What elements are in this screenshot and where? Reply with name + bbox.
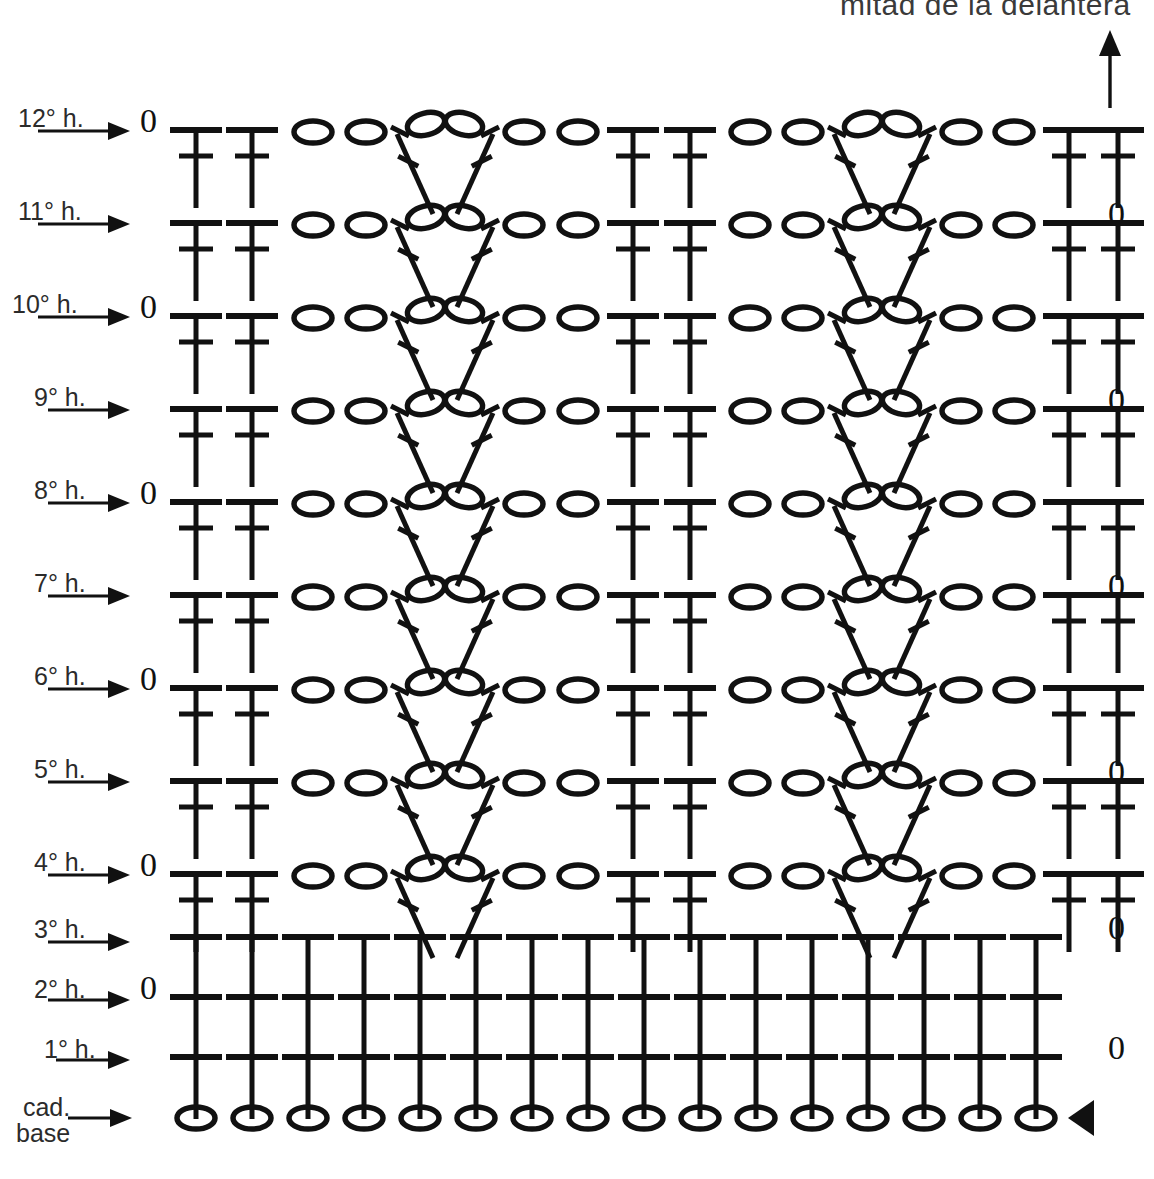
vcluster-left-stem [834, 692, 870, 772]
chain-stitch-oval [559, 865, 597, 887]
vcluster-right-cross-bar [472, 156, 492, 166]
chain-stitch-oval [443, 388, 485, 419]
chain-stitch-oval [942, 586, 980, 608]
vcluster-right-top-bar [918, 871, 936, 880]
vcluster-right-stem [457, 599, 493, 679]
row-group-row-12 [38, 109, 1144, 214]
vcluster-left-stem [397, 506, 433, 586]
chain-stitch-oval [405, 202, 447, 233]
vcluster-left-cross-bar [835, 435, 855, 445]
vcluster-left-cross-bar [398, 435, 418, 445]
row-group-row-7 [48, 574, 1144, 679]
vcluster-right-cross-bar [472, 900, 492, 910]
chain-stitch-oval [880, 481, 922, 512]
chain-stitch-oval [784, 586, 822, 608]
vcluster-right-stem [457, 506, 493, 586]
row-label-row-3: 3° h. [34, 915, 86, 944]
turning-chain-marker-row-11: 0 [1108, 195, 1125, 233]
vcluster-right-cross-bar [472, 435, 492, 445]
vcluster-left-cross-bar [398, 249, 418, 259]
vcluster-left-top-bar [828, 406, 846, 415]
row-arrow-row-4-head [108, 866, 130, 884]
vcluster-right-stem [894, 320, 930, 400]
row-label-row-8: 8° h. [34, 476, 86, 505]
chain-stitch-oval [294, 121, 332, 143]
vcluster-right-top-bar [918, 778, 936, 787]
chain-stitch-oval [347, 679, 385, 701]
chain-stitch-oval [842, 295, 884, 326]
chain-stitch-oval [457, 1107, 495, 1129]
vcluster-left-top-bar [391, 406, 409, 415]
chain-stitch-oval [405, 109, 447, 140]
vcluster-right-stem [457, 878, 493, 958]
vcluster-left-stem [834, 320, 870, 400]
vcluster-right-cross-bar [909, 156, 929, 166]
vcluster-right-stem [894, 506, 930, 586]
chain-stitch-oval [405, 295, 447, 326]
chain-stitch-oval [294, 400, 332, 422]
row-arrow-row-11-head [108, 215, 130, 233]
chain-stitch-oval [443, 481, 485, 512]
chain-stitch-oval [784, 493, 822, 515]
vcluster-right-top-bar [481, 406, 499, 415]
vcluster-right-stem [457, 134, 493, 214]
turning-chain-marker-row-5: 0 [1108, 753, 1125, 791]
vcluster-left-top-bar [391, 592, 409, 601]
row-label-row-4: 4° h. [34, 848, 86, 877]
chain-stitch-oval [347, 586, 385, 608]
vcluster-right-top-bar [481, 127, 499, 136]
vcluster-left-top-bar [828, 871, 846, 880]
chain-stitch-oval [731, 772, 769, 794]
chain-stitch-oval [347, 772, 385, 794]
chain-stitch-oval [793, 1107, 831, 1129]
chain-stitch-oval [995, 214, 1033, 236]
vcluster-right-stem [894, 878, 930, 958]
chain-stitch-oval [880, 760, 922, 791]
vcluster-left-stem [397, 227, 433, 307]
row-arrow-row-3-head [108, 933, 130, 951]
chain-stitch-oval [942, 121, 980, 143]
turning-chain-marker-row-1: 0 [1108, 1029, 1125, 1067]
chain-stitch-oval [995, 772, 1033, 794]
chain-stitch-oval [784, 400, 822, 422]
chain-stitch-oval [784, 121, 822, 143]
vcluster-left-top-bar [828, 592, 846, 601]
vcluster-left-stem [397, 320, 433, 400]
chain-stitch-oval [294, 307, 332, 329]
vcluster-left-top-bar [828, 313, 846, 322]
chain-stitch-oval [405, 853, 447, 884]
vcluster-left-stem [397, 413, 433, 493]
row-group-row-11 [38, 202, 1144, 307]
chain-stitch-oval [880, 295, 922, 326]
vcluster-right-cross-bar [909, 249, 929, 259]
vcluster-right-cross-bar [909, 435, 929, 445]
chain-stitch-oval [443, 667, 485, 698]
chain-stitch-oval [942, 772, 980, 794]
row-group-row-1 [56, 1051, 1062, 1119]
turning-chain-marker-row-7: 0 [1108, 567, 1125, 605]
crochet-chart-canvas: mitad de la delantera 12° h.011° h.010° … [0, 0, 1154, 1179]
chain-stitch-oval [842, 667, 884, 698]
vcluster-right-top-bar [918, 499, 936, 508]
stitch-symbol-layer [0, 0, 1154, 1179]
vcluster-right-stem [894, 134, 930, 214]
chain-stitch-oval [401, 1107, 439, 1129]
vcluster-right-stem [894, 599, 930, 679]
chain-stitch-oval [880, 667, 922, 698]
chain-stitch-oval [405, 388, 447, 419]
vcluster-left-cross-bar [398, 528, 418, 538]
chain-stitch-oval [347, 121, 385, 143]
chain-stitch-oval [842, 388, 884, 419]
vcluster-right-top-bar [918, 685, 936, 694]
chain-stitch-oval [849, 1107, 887, 1129]
chain-stitch-oval [995, 586, 1033, 608]
chain-stitch-oval [784, 307, 822, 329]
turning-chain-marker-row-2: 0 [140, 969, 157, 1007]
row-label-row-1: 1° h. [44, 1035, 96, 1064]
row-label-line-1: cad. [16, 1095, 70, 1121]
chain-stitch-oval [842, 760, 884, 791]
chain-stitch-oval [443, 760, 485, 791]
chain-stitch-oval [559, 586, 597, 608]
row-label-row-11: 11° h. [18, 197, 82, 226]
chain-stitch-oval [505, 586, 543, 608]
